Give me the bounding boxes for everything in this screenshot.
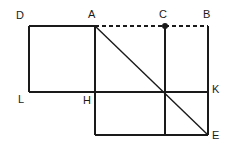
vertex-label-C: C [159,9,167,20]
vertex-label-K: K [212,84,219,95]
vertex-label-A: A [88,9,95,20]
figure-canvas [0,0,232,148]
vertex-label-D: D [16,10,24,21]
vertex-label-L: L [18,94,24,105]
segment-A-E [95,26,208,135]
vertex-label-H: H [83,95,91,106]
point-marker-C [162,23,168,29]
vertex-label-E: E [212,130,219,141]
vertex-label-B: B [203,9,210,20]
geometry-figure: D A C B L H K E [0,0,232,148]
